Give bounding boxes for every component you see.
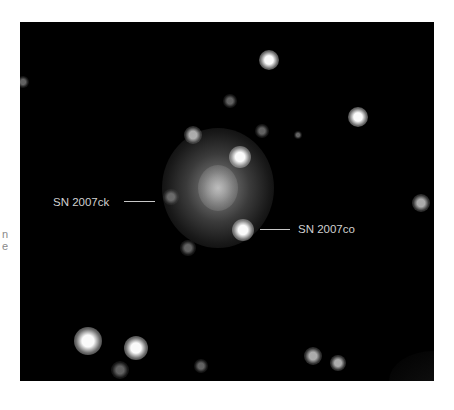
star <box>163 189 179 205</box>
sn2007co-pointer-line <box>260 229 290 230</box>
star <box>180 240 196 256</box>
star <box>194 359 208 373</box>
edge-text-fragment: e <box>0 240 8 252</box>
star <box>74 327 102 355</box>
galaxy-core <box>198 165 238 211</box>
star <box>294 131 302 139</box>
corner-noise <box>389 351 434 381</box>
star <box>229 146 251 168</box>
star <box>20 76 29 88</box>
star <box>412 194 430 212</box>
star <box>259 50 279 70</box>
sn2007ck-pointer-line <box>124 201 155 202</box>
star <box>184 126 202 144</box>
star <box>232 219 254 241</box>
star <box>223 94 237 108</box>
star <box>255 124 269 138</box>
star <box>304 347 322 365</box>
sn2007ck-label: SN 2007ck <box>53 195 109 209</box>
sn2007co-label: SN 2007co <box>298 222 355 236</box>
sky-image: SN 2007ck SN 2007co <box>20 22 434 381</box>
star <box>348 107 368 127</box>
star <box>330 355 346 371</box>
star <box>124 336 148 360</box>
star <box>111 361 129 379</box>
edge-text-fragment: n <box>0 228 8 240</box>
